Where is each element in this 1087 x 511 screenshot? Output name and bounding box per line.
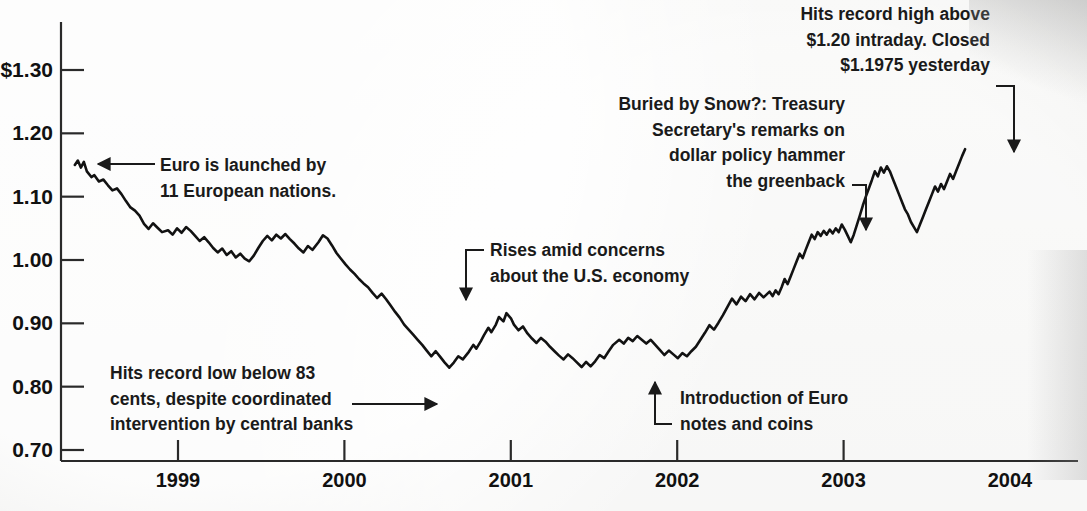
- y-axis-ticks: [61, 70, 84, 450]
- annotation-euro-notes-coins: Introduction of Euronotes and coins: [680, 388, 848, 434]
- annotation-euro-notes-coins-arrow: [655, 382, 672, 424]
- y-axis-tick-labels: $1.301.201.101.000.900.800.70: [0, 58, 53, 461]
- y-tick-label: $1.30: [0, 58, 53, 81]
- y-tick-label: 0.80: [12, 375, 53, 398]
- annotation-line: Introduction of Euro: [680, 388, 848, 408]
- x-tick-label: 2000: [322, 469, 367, 491]
- annotation-line: 11 European nations.: [160, 181, 336, 201]
- y-tick-label: 0.90: [12, 311, 53, 334]
- x-axis-tick-labels: 199920002001200220032004: [156, 469, 1033, 491]
- annotation-record-low: Hits record low below 83cents, despite c…: [110, 363, 353, 434]
- annotation-line: about the U.S. economy: [490, 266, 690, 286]
- y-tick-label: 0.70: [12, 438, 53, 461]
- annotation-line: Hits record high above: [800, 4, 990, 24]
- chart-annotations: Euro is launched by11 European nations.H…: [98, 4, 1014, 434]
- annotation-line: Buried by Snow?: Treasury: [618, 94, 845, 114]
- euro-dollar-line-chart: $1.301.201.101.000.900.800.70 1999200020…: [0, 0, 1087, 511]
- y-tick-label: 1.00: [12, 248, 53, 271]
- x-tick-label: 2003: [821, 469, 866, 491]
- annotation-record-high-arrow: [996, 86, 1014, 152]
- y-tick-label: 1.20: [12, 121, 53, 144]
- annotation-line: $1.1975 yesterday: [840, 55, 990, 75]
- annotation-euro-launch: Euro is launched by11 European nations.: [160, 155, 336, 201]
- annotation-rises-amid-concerns: Rises amid concernsabout the U.S. econom…: [490, 240, 690, 286]
- annotation-line: cents, despite coordinated: [110, 389, 332, 409]
- annotation-snow-remarks-arrow: [852, 185, 866, 230]
- annotation-line: the greenback: [726, 171, 845, 191]
- x-tick-label: 2002: [655, 469, 700, 491]
- annotation-line: notes and coins: [680, 414, 813, 434]
- annotation-snow-remarks: Buried by Snow?: TreasurySecretary's rem…: [618, 94, 845, 191]
- annotation-line: $1.20 intraday. Closed: [806, 30, 990, 50]
- annotation-line: intervention by central banks: [110, 414, 353, 434]
- x-tick-label: 1999: [156, 469, 201, 491]
- annotation-rises-amid-concerns-arrow: [466, 250, 484, 300]
- x-tick-label: 2001: [489, 469, 534, 491]
- x-tick-label: 2004: [988, 469, 1033, 491]
- annotation-record-high: Hits record high above$1.20 intraday. Cl…: [800, 4, 990, 75]
- annotation-line: Secretary's remarks on: [652, 120, 845, 140]
- y-tick-label: 1.10: [12, 185, 53, 208]
- x-axis-ticks: [178, 440, 844, 461]
- annotation-line: Hits record low below 83: [110, 363, 315, 383]
- annotation-line: dollar policy hammer: [669, 145, 845, 165]
- annotation-line: Euro is launched by: [160, 155, 327, 175]
- annotation-line: Rises amid concerns: [490, 240, 665, 260]
